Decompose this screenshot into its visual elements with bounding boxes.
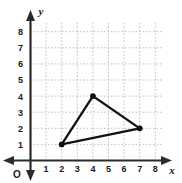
x-tick-label: 1 <box>44 164 49 174</box>
y-tick-label: 6 <box>18 59 23 69</box>
x-tick-label: 3 <box>75 164 80 174</box>
x-tick-label: 4 <box>90 164 95 174</box>
x-tick-label: 2 <box>59 164 64 174</box>
coordinate-plane-figure: 12345678 12345678 O x y <box>0 0 182 183</box>
plot-area: 12345678 12345678 O x y <box>0 0 182 183</box>
y-tick-label: 2 <box>18 124 23 134</box>
x-tick-labels: 12345678 <box>44 164 158 174</box>
y-tick-label: 4 <box>18 92 23 102</box>
horizontal-gridlines <box>31 32 164 145</box>
origin-label: O <box>13 169 21 180</box>
x-tick-label: 8 <box>153 164 158 174</box>
y-tick-label: 1 <box>18 140 23 150</box>
y-axis-label: y <box>37 5 44 17</box>
y-tick-label: 3 <box>18 108 23 118</box>
vertex-point <box>137 125 143 131</box>
x-tick-label: 6 <box>122 164 127 174</box>
y-tick-label: 7 <box>18 43 23 53</box>
y-axis <box>26 10 35 181</box>
y-tick-label: 5 <box>18 75 23 85</box>
x-axis-left-arrow-icon <box>3 156 14 165</box>
x-axis-label: x <box>168 164 175 176</box>
vertical-gridlines <box>46 23 155 161</box>
y-axis-up-arrow-icon <box>26 10 35 21</box>
triangle-shape <box>62 96 140 144</box>
y-tick-label: 8 <box>18 27 23 37</box>
y-tick-labels: 12345678 <box>18 27 23 150</box>
x-axis <box>3 156 172 165</box>
x-tick-label: 5 <box>106 164 111 174</box>
x-tick-label: 7 <box>137 164 142 174</box>
vertex-point <box>59 142 65 148</box>
y-axis-down-arrow-icon <box>26 170 35 181</box>
vertex-point <box>90 93 96 99</box>
